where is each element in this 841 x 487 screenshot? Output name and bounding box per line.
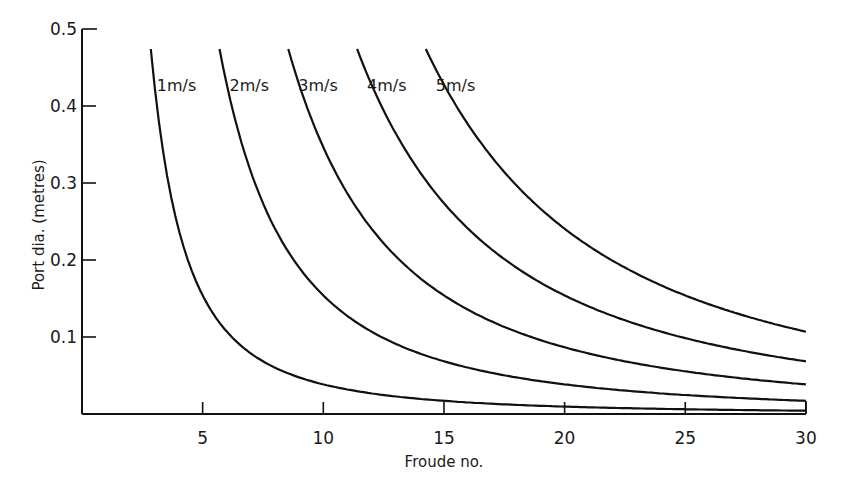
series-label: 5m/s xyxy=(436,76,476,95)
y-ticks: 0.10.20.30.40.5 xyxy=(50,19,96,347)
y-tick-label: 0.1 xyxy=(50,327,77,347)
series-label: 2m/s xyxy=(230,76,270,95)
curve-3m-per-s xyxy=(288,49,806,384)
curve-5m-per-s xyxy=(426,49,806,332)
series-label: 3m/s xyxy=(298,76,338,95)
y-tick-label: 0.4 xyxy=(50,96,77,116)
y-tick-label: 0.3 xyxy=(50,173,77,193)
y-tick-label: 0.2 xyxy=(50,250,77,270)
series-label: 4m/s xyxy=(367,76,407,95)
x-tick-label: 5 xyxy=(197,428,208,448)
x-tick-label: 25 xyxy=(674,428,696,448)
curve-1m-per-s xyxy=(151,49,806,411)
y-axis-title: Port dia. (metres) xyxy=(30,159,48,290)
curve-2m-per-s xyxy=(220,49,806,401)
x-axis-title: Froude no. xyxy=(405,453,484,471)
chart: 51015202530 0.10.20.30.40.5 1m/s2m/s3m/s… xyxy=(0,0,841,487)
curves xyxy=(151,49,806,414)
y-tick-label: 0.5 xyxy=(50,19,77,39)
series-label: 1m/s xyxy=(157,76,197,95)
x-tick-label: 15 xyxy=(433,428,455,448)
x-tick-label: 30 xyxy=(795,428,817,448)
x-tick-label: 20 xyxy=(554,428,576,448)
x-tick-label: 10 xyxy=(312,428,334,448)
series-labels: 1m/s2m/s3m/s4m/s5m/s xyxy=(157,76,476,95)
